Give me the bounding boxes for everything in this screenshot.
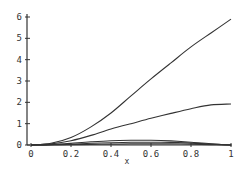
x-tick-label: 1 [228, 149, 233, 159]
y-tick-label: 5 [17, 33, 22, 43]
y-tick-label: 3 [17, 76, 22, 86]
x-tick-label: 0 [28, 149, 33, 159]
x-axis-label: x [125, 157, 130, 166]
data-series [31, 19, 231, 145]
x-tick-label: 0.6 [143, 149, 159, 159]
y-tick-label: 1 [17, 119, 22, 129]
x-tick-label: 0.4 [103, 149, 119, 159]
line-chart: 012345600.20.40.60.81 x [0, 0, 246, 173]
y-tick-label: 6 [17, 12, 22, 22]
axes [27, 14, 232, 145]
axis-ticks: 012345600.20.40.60.81 [17, 12, 234, 159]
y-tick-label: 0 [17, 140, 22, 150]
series-line-curve-2 [31, 104, 231, 145]
x-tick-label: 0.8 [183, 149, 199, 159]
series-line-curve-1 [31, 19, 231, 145]
y-tick-label: 2 [17, 97, 22, 107]
y-tick-label: 4 [17, 55, 22, 65]
x-tick-label: 0.2 [63, 149, 79, 159]
